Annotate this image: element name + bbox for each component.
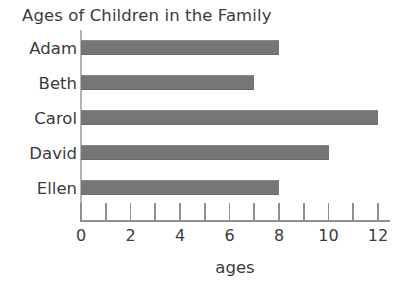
bar-david [81,145,329,160]
x-axis-tick [253,203,255,221]
x-axis-title: ages [215,258,254,278]
category-label-beth: Beth [39,74,80,93]
x-axis-tick-label: 4 [175,226,185,245]
category-label-ellen: Ellen [37,179,80,198]
x-axis-tick-label: 10 [318,226,338,245]
category-label-carol: Carol [34,109,80,128]
x-axis-tick [105,203,107,221]
bar-ellen [81,180,279,195]
x-axis-tick-label: 8 [274,226,284,245]
category-label-david: David [29,144,80,163]
x-axis-tick-label: 2 [125,226,135,245]
x-axis-tick [352,203,354,221]
x-axis-tick [229,203,231,221]
x-axis-tick [328,203,330,221]
bar-carol [81,110,378,125]
x-axis-tick [80,203,82,221]
x-axis-tick-label: 12 [368,226,388,245]
x-axis-tick-label: 6 [224,226,234,245]
x-axis-line [80,220,390,222]
x-axis-tick [278,203,280,221]
x-axis-tick [303,203,305,221]
x-axis-tick [154,203,156,221]
category-label-adam: Adam [29,39,80,58]
x-axis-tick [377,203,379,221]
x-axis-tick-label: 0 [76,226,86,245]
x-axis-tick [130,203,132,221]
bar-adam [81,40,279,55]
plot-area: 024681012 AdamBethCarolDavidEllen [0,0,398,295]
x-axis-tick [179,203,181,221]
bar-chart-figure: Ages of Children in the Family 024681012… [0,0,398,295]
x-axis-tick [204,203,206,221]
bar-beth [81,75,254,90]
